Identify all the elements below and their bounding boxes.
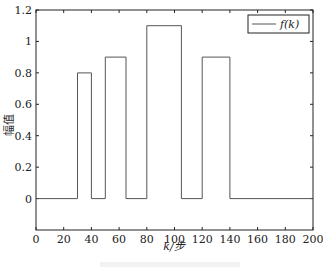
- y-tick-label: 1.2: [15, 4, 33, 17]
- x-tick-label: 200: [303, 233, 323, 246]
- x-axis-label: k/步: [163, 240, 185, 253]
- y-tick-label: 0.2: [15, 161, 33, 174]
- x-tick-label: 180: [275, 233, 296, 246]
- y-tick-label: 1: [25, 35, 32, 48]
- axis-ticks: 02040608010012014016018020000.20.40.60.8…: [15, 4, 323, 246]
- legend-label: f(k): [279, 18, 299, 31]
- y-tick-label: 0: [25, 193, 32, 206]
- chart: 02040608010012014016018020000.20.40.60.8…: [0, 0, 323, 267]
- y-tick-label: 0.6: [15, 98, 33, 111]
- x-tick-label: 20: [57, 233, 71, 246]
- caption-cutoff: [100, 262, 240, 267]
- x-tick-label: 140: [219, 233, 240, 246]
- series-line-f-k: [36, 26, 313, 199]
- x-tick-label: 160: [247, 233, 268, 246]
- x-tick-label: 0: [33, 233, 40, 246]
- x-tick-label: 80: [140, 233, 154, 246]
- x-tick-label: 40: [84, 233, 98, 246]
- x-tick-label: 60: [112, 233, 126, 246]
- y-axis-label: 幅值: [3, 114, 16, 136]
- y-tick-label: 0.4: [15, 130, 33, 143]
- x-tick-label: 120: [192, 233, 213, 246]
- y-tick-label: 0.8: [15, 67, 33, 80]
- legend: f(k): [248, 15, 309, 33]
